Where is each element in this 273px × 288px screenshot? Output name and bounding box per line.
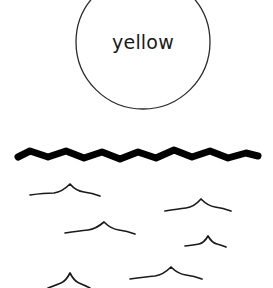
circle-label-text: yellow <box>112 31 174 53</box>
illustration-canvas: yellow <box>0 0 273 288</box>
wave-scene-illustration: yellow <box>0 0 273 288</box>
